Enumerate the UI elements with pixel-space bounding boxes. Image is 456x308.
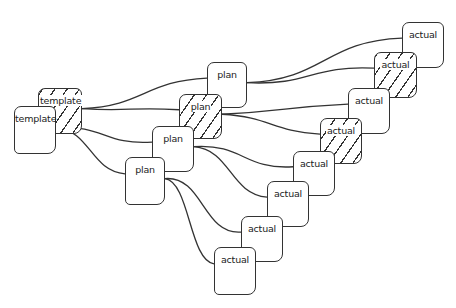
plan-node-label: plan: [217, 69, 237, 80]
actual-node: actual: [214, 247, 256, 295]
actual-node-label: actual: [221, 254, 249, 265]
connector-line: [222, 114, 320, 134]
plan-node-label: plan: [135, 164, 155, 175]
plan-node-label: plan: [190, 101, 212, 112]
connector-line: [82, 109, 179, 110]
template-node-label: template: [39, 95, 82, 106]
actual-node-label: actual: [248, 223, 276, 234]
actual-node-label: actual: [274, 188, 302, 199]
template-node: template: [14, 106, 56, 154]
actual-node-label: actual: [355, 95, 383, 106]
actual-node-label: actual: [300, 158, 328, 169]
plan-node: plan: [125, 157, 165, 205]
actual-node-label: actual: [409, 29, 437, 40]
actual-node-label: actual: [326, 125, 356, 136]
connector-line: [194, 146, 293, 167]
connector-line: [194, 147, 267, 197]
diagram-canvas: templatetemplateplanplanplanplanactualac…: [0, 0, 456, 308]
plan-node-label: plan: [163, 133, 183, 144]
connector-line: [56, 128, 125, 174]
template-node-label: template: [15, 113, 56, 124]
connector-line: [165, 179, 214, 264]
actual-node-label: actual: [380, 59, 410, 70]
